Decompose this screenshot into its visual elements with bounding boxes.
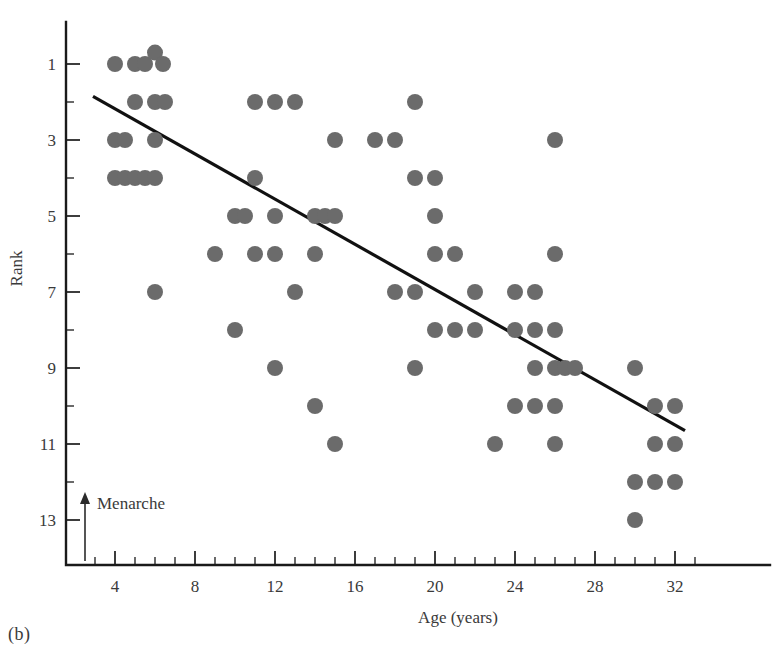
figure-panel: 48121620242832135791113Age (years)RankMe… [0, 0, 784, 659]
data-point [327, 436, 343, 452]
data-point [247, 246, 263, 262]
data-point [387, 284, 403, 300]
data-point [647, 474, 663, 490]
data-point [307, 246, 323, 262]
y-tick-label: 3 [48, 131, 57, 150]
data-point [407, 284, 423, 300]
data-point [267, 360, 283, 376]
data-point [407, 94, 423, 110]
data-point [157, 94, 173, 110]
data-point [547, 132, 563, 148]
data-point [387, 132, 403, 148]
data-point [527, 398, 543, 414]
x-tick-label: 20 [427, 577, 444, 596]
data-point [367, 132, 383, 148]
data-point [627, 360, 643, 376]
x-axis-title: Age (years) [418, 608, 498, 627]
data-point [447, 322, 463, 338]
data-point [107, 56, 123, 72]
data-point [267, 246, 283, 262]
data-point [667, 398, 683, 414]
data-point [427, 208, 443, 224]
data-point [527, 360, 543, 376]
y-tick-label: 9 [48, 359, 57, 378]
data-point [267, 208, 283, 224]
data-point [327, 132, 343, 148]
data-point [647, 436, 663, 452]
x-tick-label: 28 [587, 577, 604, 596]
data-point [327, 208, 343, 224]
data-point [547, 398, 563, 414]
data-point [527, 322, 543, 338]
data-point [427, 322, 443, 338]
menarche-label: Menarche [97, 494, 165, 513]
data-point [507, 398, 523, 414]
regression-line [93, 96, 685, 430]
data-point [547, 436, 563, 452]
data-point [527, 284, 543, 300]
data-point [427, 246, 443, 262]
data-point [567, 360, 583, 376]
y-tick-label: 5 [48, 207, 57, 226]
y-tick-label: 11 [40, 435, 56, 454]
data-point [287, 284, 303, 300]
data-point [147, 170, 163, 186]
data-point [147, 284, 163, 300]
data-point [407, 360, 423, 376]
x-tick-label: 16 [347, 577, 364, 596]
data-point [467, 284, 483, 300]
data-point [267, 94, 283, 110]
data-point [447, 246, 463, 262]
x-tick-label: 4 [111, 577, 120, 596]
x-tick-label: 8 [191, 577, 200, 596]
x-tick-label: 32 [667, 577, 684, 596]
data-point [307, 398, 323, 414]
y-tick-label: 7 [48, 283, 57, 302]
data-point [147, 132, 163, 148]
y-tick-label: 1 [48, 55, 57, 74]
data-point [667, 474, 683, 490]
scatter-plot: 48121620242832135791113Age (years)RankMe… [0, 0, 784, 659]
data-point [237, 208, 253, 224]
panel-caption: (b) [8, 624, 31, 645]
data-point [627, 474, 643, 490]
data-point [427, 170, 443, 186]
data-point [207, 246, 223, 262]
data-point [155, 56, 171, 72]
x-tick-label: 12 [267, 577, 284, 596]
data-point [407, 170, 423, 186]
data-point [247, 170, 263, 186]
y-axis-title: Rank [7, 250, 26, 286]
data-point [547, 322, 563, 338]
data-point [467, 322, 483, 338]
data-point [227, 322, 243, 338]
data-point [647, 398, 663, 414]
data-point [287, 94, 303, 110]
data-point [117, 132, 133, 148]
menarche-arrow-head [80, 492, 90, 504]
y-tick-label: 13 [39, 511, 56, 530]
data-point [667, 436, 683, 452]
data-point [247, 94, 263, 110]
data-point [547, 246, 563, 262]
data-point [487, 436, 503, 452]
data-point [627, 512, 643, 528]
data-point [507, 322, 523, 338]
data-point [507, 284, 523, 300]
data-point [127, 94, 143, 110]
x-tick-label: 24 [507, 577, 525, 596]
